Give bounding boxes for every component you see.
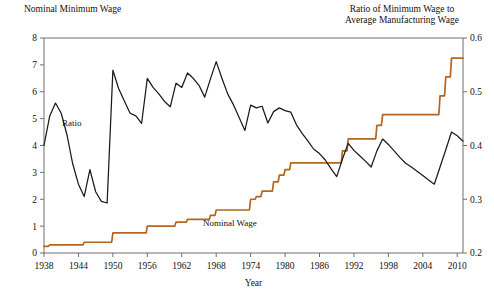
x-axis-tick-label: 1962 xyxy=(172,261,191,271)
x-axis-tick-label: 1998 xyxy=(379,261,398,271)
plot-area: 0123456780.20.30.40.50.61938194419501956… xyxy=(0,0,494,290)
left-axis-tick-label: 2 xyxy=(32,195,37,205)
left-axis-tick-label: 0 xyxy=(32,248,37,258)
right-axis-tick-label: 0.2 xyxy=(470,248,482,258)
x-axis-tick-label: 2004 xyxy=(413,261,432,271)
x-axis-tick-label: 1944 xyxy=(69,261,88,271)
left-axis-tick-label: 5 xyxy=(32,114,37,124)
nominal-wage-series-label: Nominal Wage xyxy=(203,218,257,228)
minimum-wage-chart: Nominal Minimum Wage Ratio of Minimum Wa… xyxy=(0,0,494,290)
x-axis-tick-label: 2010 xyxy=(448,261,467,271)
right-axis-tick-label: 0.3 xyxy=(470,195,482,205)
x-axis-tick-label: 1986 xyxy=(310,261,329,271)
x-axis-tick-label: 1968 xyxy=(207,261,226,271)
ratio-series-label: Ratio xyxy=(62,118,82,128)
x-axis-tick-label: 1992 xyxy=(344,261,363,271)
x-axis-tick-label: 1938 xyxy=(35,261,54,271)
x-axis-tick-label: 1980 xyxy=(276,261,295,271)
x-axis-tick-label: 1974 xyxy=(241,261,260,271)
right-axis-tick-label: 0.5 xyxy=(470,87,482,97)
x-axis-title: Year xyxy=(245,278,263,288)
left-axis-tick-label: 8 xyxy=(32,33,37,43)
left-axis-tick-label: 6 xyxy=(32,87,37,97)
left-axis-tick-label: 4 xyxy=(32,141,37,151)
left-axis-tick-label: 3 xyxy=(32,168,37,178)
ratio-line xyxy=(44,62,463,203)
right-axis-tick-label: 0.6 xyxy=(470,33,482,43)
left-axis-tick-label: 7 xyxy=(32,60,37,70)
x-axis-tick-label: 1956 xyxy=(138,261,157,271)
left-axis-tick-label: 1 xyxy=(32,222,37,232)
x-axis-tick-label: 1950 xyxy=(103,261,122,271)
right-axis-tick-label: 0.4 xyxy=(470,141,482,151)
